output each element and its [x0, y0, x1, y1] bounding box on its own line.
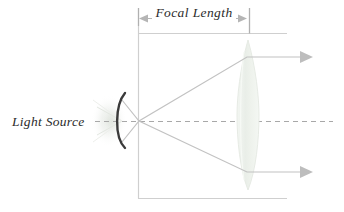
lower-light-ray: [122, 100, 301, 172]
focal-length-label: Focal Length: [154, 5, 232, 20]
reference-frame: [138, 8, 287, 199]
lower-ray-arrowhead: [300, 166, 313, 178]
focal-length-dimension: Focal Length: [139, 5, 247, 22]
upper-light-ray: [122, 57, 301, 142]
upper-ray-arrowhead: [300, 51, 313, 63]
converging-lens: [237, 40, 259, 190]
focal-length-right-arrowhead: [238, 15, 247, 23]
optics-diagram-canvas: Focal Length: [0, 0, 344, 212]
focal-length-left-arrowhead: [139, 15, 148, 23]
light-rays: [122, 51, 313, 178]
light-source-label: Light Source: [11, 114, 84, 129]
optics-diagram: Focal Length: [0, 0, 344, 212]
